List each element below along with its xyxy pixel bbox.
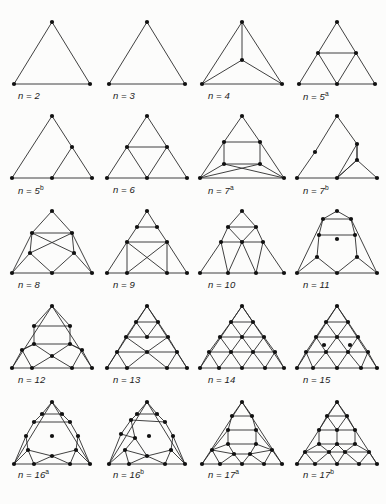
graph-edge <box>337 416 347 430</box>
graph-edge <box>327 402 337 416</box>
graph-edge <box>126 337 147 352</box>
graph-vertex <box>335 442 339 446</box>
graph-vertex <box>50 454 54 458</box>
graph-vertex <box>40 412 44 416</box>
graph-edge <box>202 402 242 464</box>
graph-edge <box>297 257 317 273</box>
graph-vertex <box>88 82 92 86</box>
graph-edge <box>147 147 167 178</box>
vertex-group <box>12 400 92 466</box>
graph-vertex <box>50 271 54 275</box>
graph-vertex <box>90 366 94 370</box>
graph-edge <box>228 242 242 273</box>
vertex-group <box>107 20 187 86</box>
panel-label-n4: n = 4 <box>194 90 290 101</box>
graph-edge <box>231 352 242 368</box>
graph-edge <box>351 219 377 273</box>
graph-vertex <box>311 366 315 370</box>
graph-edge <box>242 402 252 416</box>
graph-vertex <box>282 366 286 370</box>
vertex-group <box>295 114 379 180</box>
diagram-graph-n3 <box>99 14 195 92</box>
panel-label-text: n = 17 <box>303 469 330 480</box>
graph-vertex <box>70 231 74 235</box>
graph-vertex <box>335 304 339 308</box>
graph-vertex <box>88 462 92 466</box>
panel-label-text: n = 16 <box>113 469 140 480</box>
graph-edge <box>337 257 357 273</box>
graph-edge <box>147 402 157 414</box>
panel-label-text: n = 17 <box>208 469 235 480</box>
graph-edge <box>200 142 224 178</box>
graph-vertex <box>240 366 244 370</box>
graph-edge <box>209 337 220 352</box>
graph-edge <box>337 116 357 144</box>
graph-edge <box>72 147 92 178</box>
graph-edge <box>359 452 369 464</box>
graph-vertex <box>295 366 299 370</box>
graph-vertex <box>145 114 149 118</box>
vertex-group <box>105 304 189 370</box>
panel-label-n11: n = 11 <box>289 279 385 290</box>
graph-vertex <box>30 231 34 235</box>
graph-vertex <box>12 462 16 466</box>
graph-edge <box>107 352 117 368</box>
graph-vertex <box>125 366 129 370</box>
graph-edge <box>358 337 368 352</box>
diagram-panel-n4: n = 4 <box>194 14 290 110</box>
graph-vertex <box>105 366 109 370</box>
graph-vertex <box>107 82 111 86</box>
graph-vertex <box>145 304 149 308</box>
figure-root: n = 2n = 3n = 4n = 5an = 5bn = 6n = 7an … <box>0 0 386 504</box>
graph-edge <box>52 344 70 356</box>
graph-vertex <box>250 414 254 418</box>
edge-group <box>12 306 92 368</box>
graph-vertex <box>105 176 109 180</box>
graph-edge <box>212 450 234 454</box>
panel-label-text: n = 5 <box>18 185 40 196</box>
graph-vertex <box>156 320 160 324</box>
graph-vertex <box>335 82 339 86</box>
graph-edge <box>212 450 220 464</box>
graph-edge <box>200 164 260 178</box>
graph-vertex <box>50 304 54 308</box>
graph-edge <box>242 227 256 242</box>
graph-vertex <box>304 350 308 354</box>
diagram-panel-n9: n = 9 <box>99 203 195 299</box>
graph-vertex <box>119 432 123 436</box>
graph-vertex <box>219 240 223 244</box>
graph-vertex <box>185 271 189 275</box>
graph-edge <box>231 337 242 352</box>
graph-vertex <box>313 150 317 154</box>
edge-group <box>107 116 187 178</box>
edge-group <box>202 402 282 464</box>
graph-edge <box>347 416 355 430</box>
edge-group <box>202 22 282 84</box>
graph-edge <box>231 306 242 322</box>
vertex-group <box>10 114 94 180</box>
graph-vertex <box>125 145 129 149</box>
graph-edge <box>306 352 313 368</box>
graph-vertex <box>315 255 319 259</box>
graph-vertex <box>335 335 339 339</box>
graph-vertex <box>32 342 36 346</box>
graph-edge <box>76 436 78 450</box>
panel-label-n7a: n = 7a <box>194 184 290 196</box>
graph-vertex <box>282 271 286 275</box>
diagram-panel-n17b: n = 17b <box>289 392 385 488</box>
graph-vertex <box>314 335 318 339</box>
diagram-graph-n4 <box>194 14 290 92</box>
graph-vertex <box>262 335 266 339</box>
graph-vertex <box>295 462 299 466</box>
graph-edge <box>232 402 242 416</box>
graph-edge <box>52 211 72 233</box>
graph-edge <box>12 306 52 368</box>
graph-vertex <box>32 462 36 466</box>
graph-edge <box>326 352 337 368</box>
diagram-panel-n6: n = 6 <box>99 108 195 204</box>
graph-edge <box>337 211 351 219</box>
graph-vertex <box>346 350 350 354</box>
graph-vertex <box>240 400 244 404</box>
graph-vertex <box>353 442 357 446</box>
graph-vertex <box>353 428 357 432</box>
